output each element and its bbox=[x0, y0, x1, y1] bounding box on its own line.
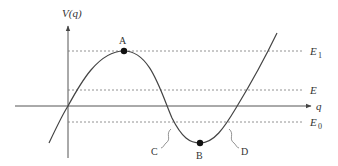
svg-text:E: E bbox=[309, 84, 317, 96]
energy-label-e1: E 1 bbox=[309, 45, 322, 60]
annotation-c-label: C bbox=[151, 146, 158, 157]
svg-text:E: E bbox=[309, 116, 317, 128]
leader-d bbox=[229, 129, 239, 148]
svg-text:1: 1 bbox=[318, 51, 322, 60]
potential-curve bbox=[49, 33, 277, 143]
svg-text:E: E bbox=[309, 45, 317, 57]
point-a-marker bbox=[121, 48, 127, 54]
point-b-marker bbox=[197, 140, 203, 146]
energy-label-e0: E 0 bbox=[309, 116, 322, 131]
potential-diagram: V(q) q A B C D E 1 E E 0 bbox=[0, 0, 338, 166]
leader-c bbox=[161, 129, 171, 148]
svg-text:0: 0 bbox=[318, 122, 322, 131]
annotation-d-label: D bbox=[241, 146, 248, 157]
point-b-label: B bbox=[196, 150, 203, 161]
x-axis-label: q bbox=[316, 100, 322, 112]
point-a-label: A bbox=[119, 35, 127, 46]
y-axis-label: V(q) bbox=[62, 7, 82, 20]
energy-label-e: E bbox=[309, 84, 317, 96]
